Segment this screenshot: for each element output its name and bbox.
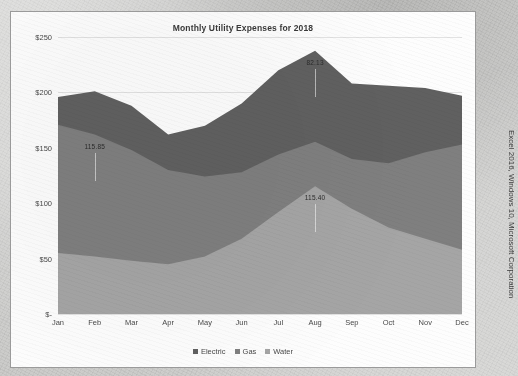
chart-legend: ElectricGasWater bbox=[11, 347, 475, 356]
data-label-leader-line bbox=[95, 153, 96, 181]
data-label-leader-line bbox=[315, 204, 316, 232]
data-label-leader-line bbox=[315, 69, 316, 97]
chart-card: Monthly Utility Expenses for 2018 $250$2… bbox=[10, 11, 476, 368]
x-axis-tick-label: Apr bbox=[162, 318, 174, 327]
stacked-area-series bbox=[58, 37, 462, 314]
legend-item-electric[interactable]: Electric bbox=[193, 347, 226, 356]
plot-area: $250$200$150$100$50$- 115.8582.13115.40 … bbox=[58, 37, 462, 314]
x-axis-tick-label: Nov bbox=[419, 318, 432, 327]
legend-swatch-icon bbox=[265, 349, 270, 354]
y-axis-tick-label: $250 bbox=[35, 33, 52, 42]
x-axis-tick-label: Jun bbox=[236, 318, 248, 327]
gridline bbox=[58, 314, 462, 315]
legend-item-water[interactable]: Water bbox=[265, 347, 293, 356]
x-axis-tick-label: Jan bbox=[52, 318, 64, 327]
y-axis-tick-label: $50 bbox=[39, 254, 52, 263]
legend-item-gas[interactable]: Gas bbox=[235, 347, 257, 356]
y-axis-tick-label: $200 bbox=[35, 88, 52, 97]
x-axis-tick-label: Sep bbox=[345, 318, 358, 327]
data-label: 82.13 bbox=[306, 59, 323, 66]
x-axis-tick-label: Dec bbox=[455, 318, 468, 327]
x-axis-tick-label: Feb bbox=[88, 318, 101, 327]
legend-label: Water bbox=[273, 347, 293, 356]
legend-label: Electric bbox=[201, 347, 226, 356]
y-axis-tick-label: $150 bbox=[35, 143, 52, 152]
x-axis-tick-label: Mar bbox=[125, 318, 138, 327]
x-axis-tick-label: Jul bbox=[274, 318, 284, 327]
x-axis-tick-label: Aug bbox=[308, 318, 321, 327]
source-credit: Excel 2016, Windows 10, Microsoft Corpor… bbox=[507, 130, 516, 299]
x-axis-tick-label: Oct bbox=[383, 318, 395, 327]
chart-title: Monthly Utility Expenses for 2018 bbox=[11, 23, 475, 33]
x-axis-tick-label: May bbox=[198, 318, 212, 327]
data-label: 115.40 bbox=[305, 194, 326, 201]
legend-swatch-icon bbox=[235, 349, 240, 354]
data-label: 115.85 bbox=[84, 143, 105, 150]
legend-label: Gas bbox=[243, 347, 257, 356]
y-axis-tick-label: $100 bbox=[35, 199, 52, 208]
legend-swatch-icon bbox=[193, 349, 198, 354]
